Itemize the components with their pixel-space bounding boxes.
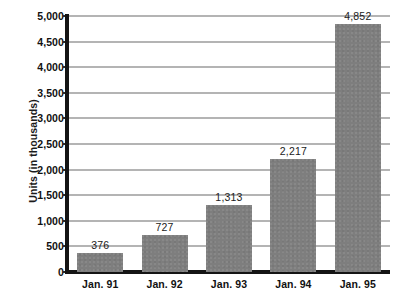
bar[interactable]: [142, 235, 188, 272]
x-tick-label: Jan. 93: [211, 278, 247, 290]
y-tick-label: 5,000: [37, 10, 64, 22]
bar-chart: Units (in thousands) 05001,0001,5002,000…: [0, 0, 410, 302]
bar-group: 376: [77, 16, 123, 272]
bar[interactable]: [270, 159, 316, 273]
bar-value-label: 727: [156, 221, 174, 233]
bar-group: 2,217: [270, 16, 316, 272]
y-tick-label: 3,500: [37, 87, 64, 99]
y-tick-label: 500: [46, 240, 64, 252]
bar-value-label: 376: [91, 239, 109, 251]
bar-group: 1,313: [206, 16, 252, 272]
y-tick-label: 2,000: [37, 164, 64, 176]
bar-group: 4,852: [335, 16, 381, 272]
y-tick-label: 1,000: [37, 215, 64, 227]
x-tick-label: Jan. 91: [82, 278, 118, 290]
x-tick-label: Jan. 92: [146, 278, 182, 290]
bar-value-label: 1,313: [215, 191, 242, 203]
y-axis-tick-labels: 05001,0001,5002,0002,5003,0003,5004,0004…: [18, 16, 64, 272]
bars-layer: 3767271,3132,2174,852: [68, 16, 390, 272]
y-tick-label: 2,500: [37, 138, 64, 150]
x-axis-tick-labels: Jan. 91Jan. 92Jan. 93Jan. 94Jan. 95: [68, 278, 390, 296]
x-tick-label: Jan. 94: [275, 278, 311, 290]
y-tick-label: 4,000: [37, 61, 64, 73]
bar[interactable]: [206, 205, 252, 272]
bar[interactable]: [335, 24, 381, 272]
bar[interactable]: [77, 253, 123, 272]
bar-value-label: 4,852: [344, 10, 371, 22]
y-tick-label: 4,500: [37, 36, 64, 48]
y-tick-label: 3,000: [37, 112, 64, 124]
bar-value-label: 2,217: [280, 145, 307, 157]
x-tick-label: Jan. 95: [340, 278, 376, 290]
bar-group: 727: [142, 16, 188, 272]
y-tick-label: 1,500: [37, 189, 64, 201]
